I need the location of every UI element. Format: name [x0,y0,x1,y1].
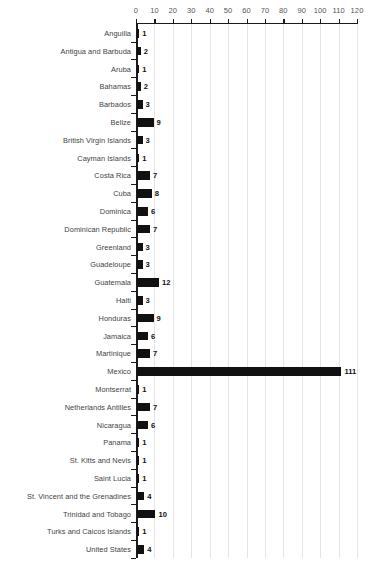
bar-row: Bahamas2 [0,77,368,96]
bar [137,207,148,216]
category-label: Honduras [0,309,131,328]
x-axis-tick-mark [247,19,248,24]
bar-row: Haiti3 [0,291,368,310]
bar-row: Guatemala12 [0,273,368,292]
bar-row: Anguilla1 [0,24,368,43]
bar [137,243,143,252]
category-label: United States [0,540,131,559]
x-axis-tick-mark [320,19,321,24]
bar-value-label: 1 [142,451,146,470]
x-axis-tick-label: 100 [314,6,327,16]
bar-value-label: 1 [142,380,146,399]
bar-row: Dominica6 [0,202,368,221]
bar-row: St. Vincent and the Grenadines4 [0,487,368,506]
bar-value-label: 9 [157,113,161,132]
bar [137,474,139,483]
bar-row: Montserrat1 [0,380,368,399]
bar [137,349,150,358]
bar [137,403,150,412]
bar-value-label: 3 [146,255,150,274]
bar-value-label: 3 [146,291,150,310]
x-axis-tick-mark [228,19,229,24]
bar [137,154,139,163]
category-label: Aruba [0,60,131,79]
bar-row: Aruba1 [0,60,368,79]
bar [137,171,150,180]
bar-row: Cayman Islands1 [0,149,368,168]
bar-value-label: 8 [155,184,159,203]
x-axis-tick-mark [265,19,266,24]
category-label: Martinique [0,344,131,363]
bar-row: Cuba8 [0,184,368,203]
bar [137,100,143,109]
bar-row: St. Kitts and Nevis1 [0,451,368,470]
bar-value-label: 1 [142,522,146,541]
bar [137,118,154,127]
bar [137,545,144,554]
bar-value-label: 6 [151,327,155,346]
category-label: Guadeloupe [0,255,131,274]
bar-value-label: 6 [151,202,155,221]
bar-row: Barbados3 [0,95,368,114]
bar [137,385,139,394]
x-axis-tick-label: 80 [279,6,288,16]
bar-row: Nicaragua6 [0,416,368,435]
category-label: Greenland [0,238,131,257]
bar [137,456,139,465]
category-label: Trinidad and Tobago [0,505,131,524]
x-axis-tick-mark [154,19,155,24]
x-axis-tick-labels: 0102030405060708090100110120 [0,6,368,18]
x-axis-tick-label: 40 [205,6,214,16]
bar-value-label: 1 [142,60,146,79]
bar [137,82,141,91]
category-label: Montserrat [0,380,131,399]
bar [137,438,139,447]
bar-value-label: 12 [162,273,170,292]
x-axis-tick-label: 30 [187,6,196,16]
bar-row: Martinique7 [0,344,368,363]
bar [137,65,139,74]
bar-row: Trinidad and Tobago10 [0,505,368,524]
x-axis-tick-label: 110 [332,6,344,16]
bar-value-label: 6 [151,416,155,435]
bar [137,136,143,145]
bar-chart: 0102030405060708090100110120 Anguilla1An… [0,0,368,583]
bar [137,29,139,38]
category-label: Antigua and Barbuda [0,42,131,61]
bar-value-label: 1 [142,149,146,168]
bar-value-label: 7 [153,166,157,185]
category-label: Dominica [0,202,131,221]
bar-value-label: 10 [158,505,166,524]
bar [137,332,148,341]
bar [137,189,152,198]
bar-value-label: 9 [157,309,161,328]
bar-row: Jamaica6 [0,327,368,346]
bar-value-label: 1 [142,24,146,43]
bar-row: Dominican Republic7 [0,220,368,239]
bar-value-label: 4 [147,540,151,559]
bar-value-label: 1 [142,469,146,488]
x-axis-tick-mark [357,19,358,24]
bar-row: Panama1 [0,433,368,452]
x-axis-tick-mark [173,19,174,24]
bar-value-label: 3 [146,95,150,114]
bar [137,225,150,234]
category-label: Dominican Republic [0,220,131,239]
category-label: British Virgin Islands [0,131,131,150]
category-label: Bahamas [0,77,131,96]
category-label: Barbados [0,95,131,114]
bar-row: Honduras9 [0,309,368,328]
category-label: Panama [0,433,131,452]
bar-value-label: 7 [153,398,157,417]
y-axis-tick-mark [131,558,136,559]
bar-value-label: 4 [147,487,151,506]
bar-value-label: 7 [153,220,157,239]
bar-row: British Virgin Islands3 [0,131,368,150]
bar-value-label: 2 [144,77,148,96]
bar [137,260,143,269]
bar-row: Costa Rica7 [0,166,368,185]
x-axis-tick-label: 50 [224,6,233,16]
x-axis-tick-mark [283,19,284,24]
x-axis-tick-label: 120 [351,6,364,16]
bar [137,510,155,519]
